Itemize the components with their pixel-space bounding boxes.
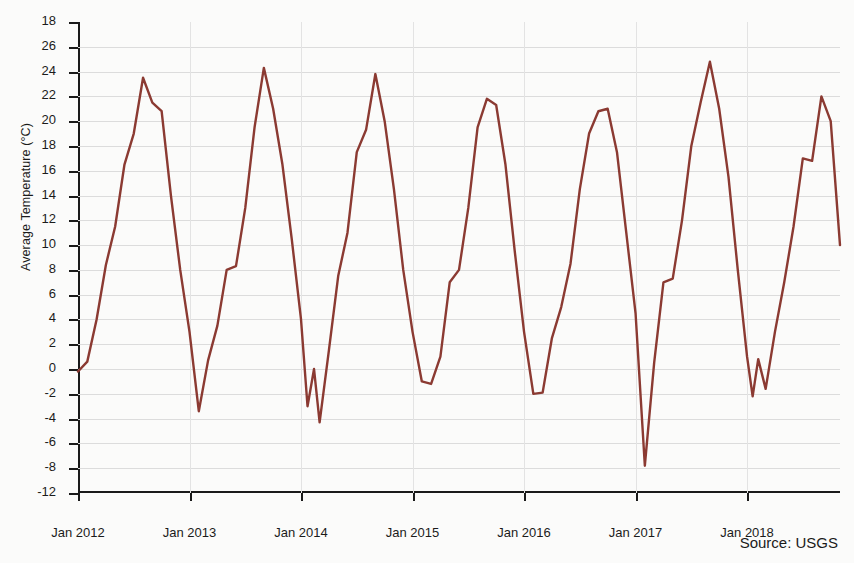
x-axis-tick <box>413 493 415 501</box>
y-axis-tick-label: -6 <box>12 434 56 449</box>
y-axis-tick-label: 2 <box>12 335 56 350</box>
temperature-line-chart: Average Temperature (°C) 182624222018161… <box>0 0 854 563</box>
y-axis-tick <box>69 196 78 198</box>
y-axis-tick <box>69 468 78 470</box>
y-axis-tick <box>69 443 78 445</box>
y-axis-tick <box>69 493 78 495</box>
x-axis-tick-label: Jan 2013 <box>135 525 245 540</box>
y-axis-tick <box>69 220 78 222</box>
y-axis-tick <box>69 419 78 421</box>
temperature-series-line <box>78 22 840 493</box>
y-axis-tick-label: 14 <box>12 187 56 202</box>
y-axis-tick <box>69 171 78 173</box>
y-axis-tick-label: 18 <box>12 137 56 152</box>
x-axis-tick <box>301 493 303 501</box>
source-attribution: Source: USGS <box>740 534 838 551</box>
y-axis-tick <box>69 319 78 321</box>
y-axis-tick <box>69 295 78 297</box>
x-axis-tick-label: Jan 2017 <box>581 525 691 540</box>
y-axis-tick-label: 6 <box>12 286 56 301</box>
y-axis-tick <box>69 369 78 371</box>
y-axis-tick <box>69 47 78 49</box>
y-axis-tick-label: 8 <box>12 261 56 276</box>
x-axis-tick <box>190 493 192 501</box>
y-axis-tick <box>69 270 78 272</box>
y-axis-tick-label: 20 <box>12 112 56 127</box>
y-axis-tick <box>69 344 78 346</box>
y-axis-tick-label: 18 <box>12 13 56 28</box>
y-axis-tick-label: 0 <box>12 360 56 375</box>
y-axis-tick <box>69 146 78 148</box>
y-axis-tick-label: 16 <box>12 162 56 177</box>
y-axis-tick-label: -2 <box>12 385 56 400</box>
x-axis-tick-label: Jan 2015 <box>358 525 468 540</box>
y-axis-tick-label: -4 <box>12 410 56 425</box>
y-axis-tick <box>69 96 78 98</box>
x-axis-tick <box>636 493 638 501</box>
x-axis-tick-label: Jan 2016 <box>469 525 579 540</box>
x-axis-tick <box>524 493 526 501</box>
y-axis-tick-label: -12 <box>12 484 56 499</box>
x-axis-tick <box>78 493 80 501</box>
y-axis-tick-label: 4 <box>12 310 56 325</box>
plot-area: 1826242220181614121086420-2-4-6-8-12 Jan… <box>78 22 840 493</box>
y-axis-tick-label: -8 <box>12 459 56 474</box>
y-axis-tick <box>69 121 78 123</box>
y-axis-tick-label: 22 <box>12 87 56 102</box>
y-axis-tick <box>69 394 78 396</box>
y-axis-tick-label: 12 <box>12 211 56 226</box>
x-axis-tick-label: Jan 2014 <box>246 525 356 540</box>
y-axis-tick-label: 10 <box>12 236 56 251</box>
y-axis-tick-label: 24 <box>12 63 56 78</box>
y-axis-tick <box>69 72 78 74</box>
x-axis-tick <box>747 493 749 501</box>
y-axis-tick-label: 26 <box>12 38 56 53</box>
y-axis-tick <box>69 245 78 247</box>
x-axis-tick-label: Jan 2012 <box>23 525 133 540</box>
y-axis-tick <box>69 22 78 24</box>
